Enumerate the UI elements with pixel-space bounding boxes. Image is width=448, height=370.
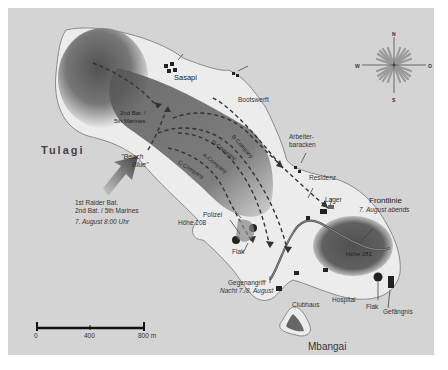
place-residenz: Residenz bbox=[309, 174, 336, 182]
unit-2nd-bat-line2: 5th Marines bbox=[114, 117, 145, 125]
place-hoehe-208: Höhe 208 bbox=[178, 219, 206, 227]
island-name-mbangai: Mbangai bbox=[308, 343, 346, 351]
scale-tick-0: 0 bbox=[34, 332, 38, 340]
place-flak-east: Flak bbox=[366, 303, 378, 311]
landing-time: 7. August 8:00 Uhr bbox=[75, 218, 129, 226]
label-counterattack-date: Nacht 7./8. August bbox=[220, 287, 273, 295]
label-frontline-title: Frontlinie bbox=[369, 197, 402, 205]
compass-north: N bbox=[392, 30, 396, 38]
landing-force-line1: 1st Raider Bat. bbox=[75, 199, 118, 207]
place-gefaengnis: Gefängnis bbox=[383, 308, 413, 316]
place-clubhaus: Clubhaus bbox=[292, 301, 319, 309]
label-counterattack-title: Gegenangriff bbox=[228, 279, 265, 287]
label-beach-blue-line2: Blue" bbox=[132, 161, 149, 169]
place-bootswerft: Bootswerft bbox=[238, 96, 269, 104]
place-arbeiterbaracken-line1: Arbeiter- bbox=[289, 133, 314, 141]
scale-tick-800: 800 m bbox=[138, 332, 156, 340]
compass-south: S bbox=[392, 96, 395, 104]
scale-bar bbox=[37, 322, 144, 331]
label-beach-blue-line1: "Beach bbox=[121, 153, 143, 161]
place-flak-west: Flak bbox=[232, 248, 244, 256]
place-polizei: Polizei bbox=[203, 211, 222, 219]
unit-2nd-bat-line1: 2nd Bat. / bbox=[120, 109, 146, 117]
compass-west: W bbox=[355, 62, 360, 70]
scale-tick-400: 400 bbox=[84, 332, 95, 340]
tulagi-battle-map: Tulagi Mbangai Sasapi Bootswerft Arbeite… bbox=[8, 8, 434, 355]
compass-east: O bbox=[428, 62, 432, 70]
landing-force-line2: 2nd Bat. / 5th Marines bbox=[75, 207, 139, 215]
compass-rose-icon bbox=[362, 37, 426, 93]
place-hospital: Hospital bbox=[332, 296, 355, 304]
place-lager: Lager bbox=[325, 196, 342, 204]
place-hoehe-281: Höhe 281 bbox=[346, 250, 372, 258]
label-frontline-date: 7. August abends bbox=[359, 206, 409, 214]
place-arbeiterbaracken-line2: baracken bbox=[289, 141, 316, 149]
place-sasapi: Sasapi bbox=[174, 74, 197, 82]
island-name-tulagi: Tulagi bbox=[41, 146, 85, 154]
